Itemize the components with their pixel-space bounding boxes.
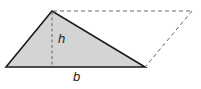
parallelogram-right-dashed-edge <box>146 11 192 66</box>
diagram-graphic <box>0 0 201 89</box>
triangle-area-diagram: h b <box>0 0 201 89</box>
height-label: h <box>58 32 65 45</box>
base-label: b <box>73 70 80 83</box>
triangle-shape <box>6 11 145 67</box>
